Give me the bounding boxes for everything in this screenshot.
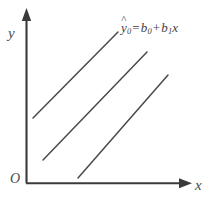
regression-lines-figure: y x O ^y0=b0+b1x [0, 0, 209, 205]
equation-b1-symbol: b [161, 20, 168, 35]
y-axis-label: y [8, 26, 15, 41]
equation-y-hat: ^y [121, 21, 127, 34]
x-axis-arrow-icon [179, 178, 192, 188]
y-axis-arrow-icon [22, 8, 31, 21]
x-axis-label: x [195, 178, 202, 193]
equation-equals: = [131, 20, 141, 35]
regression-equation-annotation: ^y0=b0+b1x [121, 21, 178, 36]
regression-line-1 [33, 32, 118, 118]
regression-line-2 [43, 52, 147, 160]
figure-caption [0, 196, 209, 205]
origin-label: O [10, 172, 20, 186]
equation-x-symbol: x [172, 20, 178, 35]
hat-accent-icon: ^ [121, 14, 127, 25]
equation-plus: + [152, 20, 162, 35]
regression-line-3 [78, 75, 168, 178]
